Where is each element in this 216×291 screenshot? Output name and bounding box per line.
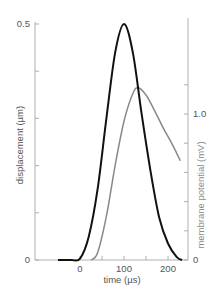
x-axis-title: time (µs) bbox=[103, 274, 140, 285]
x-tick-label-100: 100 bbox=[116, 263, 132, 274]
y-right-tick-label-one: 1.0 bbox=[193, 108, 206, 119]
y-axis-left-title: displacement (µm) bbox=[14, 106, 25, 184]
y-right-tick-label-zero: 0 bbox=[193, 254, 198, 265]
x-axis bbox=[35, 256, 188, 260]
membrane-potential-curve bbox=[91, 88, 180, 260]
y-left-tick-label-zero: 0 bbox=[25, 254, 30, 265]
y-axis-right-title: membrane potential (mV) bbox=[195, 141, 206, 248]
y-left-tick-label-top: 0.5 bbox=[17, 18, 30, 29]
left-y-axis bbox=[35, 22, 39, 260]
x-tick-label-0: 0 bbox=[77, 263, 82, 274]
x-tick-label-200: 200 bbox=[160, 263, 176, 274]
dual-axis-line-chart: 0.5 0 1.0 0 0 100 200 time (µs) displace… bbox=[0, 0, 216, 291]
right-y-axis bbox=[184, 18, 188, 260]
